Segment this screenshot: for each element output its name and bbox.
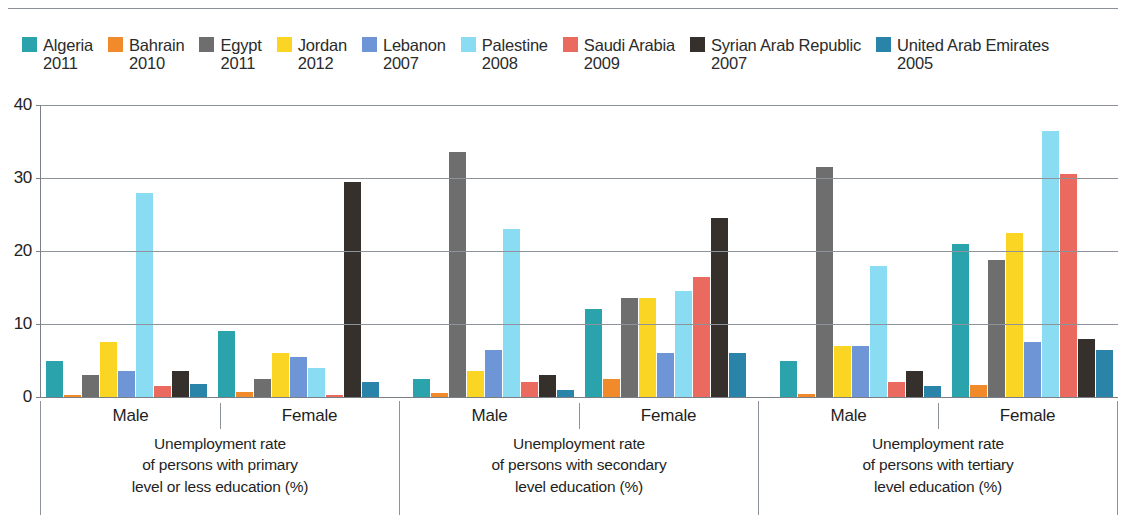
bar[interactable] — [290, 357, 307, 397]
section-caption-line: of persons with primary — [132, 454, 308, 475]
legend-color-swatch — [876, 37, 891, 52]
bar[interactable] — [1006, 233, 1023, 397]
bar[interactable] — [100, 342, 117, 397]
bar[interactable] — [924, 386, 941, 397]
bar[interactable] — [693, 277, 710, 397]
legend-year-label: 2012 — [298, 54, 347, 72]
gridline — [41, 324, 1118, 325]
bar[interactable] — [657, 353, 674, 397]
section-caption-line: of persons with secondary — [491, 454, 666, 475]
gridline — [41, 251, 1118, 252]
bar[interactable] — [172, 371, 189, 397]
legend-color-swatch — [690, 37, 705, 52]
bar[interactable] — [413, 379, 430, 397]
bar[interactable] — [834, 346, 851, 397]
legend-color-swatch — [108, 37, 123, 52]
bar[interactable] — [970, 385, 987, 397]
bar[interactable] — [1060, 174, 1077, 397]
legend-item[interactable]: Saudi Arabia2009 — [563, 36, 675, 73]
x-label-male: Male — [41, 401, 220, 431]
bar[interactable] — [521, 382, 538, 397]
bar[interactable] — [362, 382, 379, 397]
bar[interactable] — [154, 386, 171, 397]
legend-item[interactable]: Syrian Arab Republic2007 — [690, 36, 861, 73]
legend-color-swatch — [461, 37, 476, 52]
bar[interactable] — [449, 152, 466, 397]
legend-color-swatch — [563, 37, 578, 52]
bar[interactable] — [780, 361, 797, 398]
legend-item[interactable]: Lebanon2007 — [362, 36, 446, 73]
legend-year-label: 2005 — [897, 54, 1049, 72]
bar[interactable] — [1024, 342, 1041, 397]
bar[interactable] — [82, 375, 99, 397]
bar[interactable] — [816, 167, 833, 397]
education-section: MaleFemaleUnemployment rateof persons wi… — [759, 401, 1118, 515]
bar[interactable] — [639, 298, 656, 397]
chart-page: Algeria2011Bahrain2010Egypt2011Jordan201… — [0, 0, 1126, 515]
legend-item[interactable]: Egypt2011 — [199, 36, 261, 73]
section-caption-line: Unemployment rate — [132, 433, 308, 454]
legend-year-label: 2007 — [711, 54, 861, 72]
legend-country-label: Palestine — [482, 36, 548, 54]
legend-item[interactable]: Jordan2012 — [277, 36, 347, 73]
bar[interactable] — [729, 353, 746, 397]
bar[interactable] — [1078, 339, 1095, 397]
bar[interactable] — [585, 309, 602, 397]
legend-year-label: 2009 — [584, 54, 675, 72]
legend-item[interactable]: United Arab Emirates2005 — [876, 36, 1049, 73]
education-section: MaleFemaleUnemployment rateof persons wi… — [40, 401, 400, 515]
bar[interactable] — [485, 350, 502, 397]
bar[interactable] — [621, 298, 638, 397]
bar[interactable] — [557, 390, 574, 397]
bar[interactable] — [603, 379, 620, 397]
bar[interactable] — [503, 229, 520, 397]
bar[interactable] — [118, 371, 135, 397]
legend-item[interactable]: Palestine2008 — [461, 36, 548, 73]
bar[interactable] — [1042, 131, 1059, 397]
section-caption-line: Unemployment rate — [491, 433, 666, 454]
sex-divider — [938, 403, 939, 429]
bar[interactable] — [136, 193, 153, 397]
legend-item[interactable]: Bahrain2010 — [108, 36, 184, 73]
bar[interactable] — [952, 244, 969, 397]
bar[interactable] — [467, 371, 484, 397]
section-caption: Unemployment rateof persons with seconda… — [491, 433, 666, 497]
bar[interactable] — [711, 218, 728, 397]
legend-year-label: 2011 — [43, 54, 93, 72]
x-label-male: Male — [759, 401, 938, 431]
x-label-female: Female — [579, 401, 758, 431]
legend-item[interactable]: Algeria2011 — [22, 36, 93, 73]
bar[interactable] — [852, 346, 869, 397]
bar[interactable] — [272, 353, 289, 397]
bar[interactable] — [906, 371, 923, 397]
section-caption-line: level or less education (%) — [132, 476, 308, 497]
bar[interactable] — [675, 291, 692, 397]
legend-country-label: Egypt — [220, 36, 261, 54]
y-tick-label: 20 — [14, 241, 32, 261]
bar[interactable] — [539, 375, 556, 397]
legend-color-swatch — [199, 37, 214, 52]
bar[interactable] — [218, 331, 235, 397]
legend-country-label: Bahrain — [129, 36, 184, 54]
section-caption-line: level education (%) — [491, 476, 666, 497]
bar[interactable] — [1096, 350, 1113, 397]
sex-divider — [579, 403, 580, 429]
legend-year-label: 2008 — [482, 54, 548, 72]
bar[interactable] — [988, 260, 1005, 397]
legend-country-label: Syrian Arab Republic — [711, 36, 861, 54]
bar[interactable] — [308, 368, 325, 397]
bar[interactable] — [46, 361, 63, 398]
bar[interactable] — [344, 182, 361, 397]
legend-color-swatch — [362, 37, 377, 52]
section-caption: Unemployment rateof persons with tertiar… — [862, 433, 1013, 497]
sex-label-row: MaleFemale — [759, 401, 1117, 431]
bar[interactable] — [888, 382, 905, 397]
legend-country-label: Saudi Arabia — [584, 36, 675, 54]
bar[interactable] — [190, 384, 207, 397]
bar[interactable] — [870, 266, 887, 397]
legend-year-label: 2011 — [220, 54, 261, 72]
y-tick-mark — [36, 178, 41, 179]
sex-label-row: MaleFemale — [41, 401, 399, 431]
y-tick-label: 40 — [14, 95, 32, 115]
bar[interactable] — [254, 379, 271, 397]
